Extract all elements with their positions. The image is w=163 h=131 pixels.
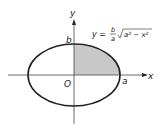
b-label: b: [66, 35, 72, 45]
equation: y = b a a² − x²: [91, 26, 152, 43]
origin-label: O: [64, 79, 71, 89]
ellipse-diagram: x y O a b y = b a a² − x²: [0, 0, 163, 131]
fraction-numerator: b: [111, 26, 115, 34]
fraction-denominator: a: [111, 35, 115, 43]
y-axis-label: y: [69, 8, 76, 18]
equation-lhs: y =: [91, 30, 106, 39]
x-axis-label: x: [147, 71, 154, 81]
radicand: a² − x²: [124, 31, 149, 39]
a-label: a: [122, 76, 128, 86]
y-axis-arrow-icon: [72, 19, 76, 25]
